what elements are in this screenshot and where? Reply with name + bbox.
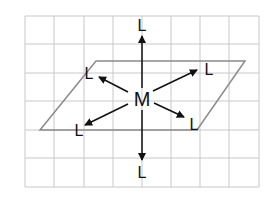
ligand-label-upper-right: L bbox=[205, 61, 214, 78]
ligand-label-lower-right: L bbox=[190, 116, 199, 133]
ligand-label-top: L bbox=[138, 17, 147, 34]
center-atom-label: M bbox=[134, 88, 151, 110]
ligand-label-bottom: L bbox=[138, 164, 147, 181]
bond-lower-left-arrow-icon bbox=[85, 104, 128, 125]
ligand-label-lower-left: L bbox=[75, 122, 84, 139]
ligand-label-upper-left: L bbox=[85, 65, 94, 82]
octahedral-diagram: M L L L L L L bbox=[0, 0, 275, 200]
bond-lower-right-arrow-icon bbox=[154, 103, 184, 117]
